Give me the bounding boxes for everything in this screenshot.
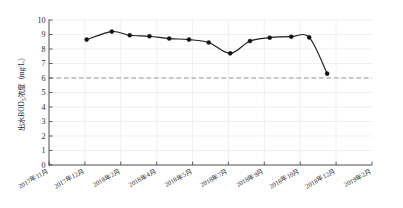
- data-point: [110, 30, 114, 34]
- data-point: [268, 36, 272, 40]
- data-point: [85, 38, 89, 42]
- y-axis-title-prefix: 出水BOD: [17, 100, 26, 130]
- x-axis-tick-labels: 2017年11月 2017年12月 2018年2月 2018年4月 2018年5…: [16, 166, 373, 191]
- y-axis-title-suffix: 浓度（mg/L）: [17, 54, 26, 98]
- data-point: [128, 33, 132, 37]
- y-tick-label: 2: [42, 132, 46, 141]
- data-point: [307, 35, 311, 39]
- x-axis-ticks: [49, 162, 372, 165]
- x-tick-label: 2017年12月: [52, 166, 86, 191]
- y-axis-ticks: [49, 20, 53, 165]
- y-tick-label: 3: [42, 117, 46, 126]
- series-markers: [85, 30, 330, 76]
- y-tick-label: 6: [42, 74, 46, 83]
- y-tick-label: 1: [42, 146, 46, 155]
- data-point: [147, 34, 151, 38]
- x-tick-label: 2018年7月: [198, 166, 229, 189]
- y-tick-label: 8: [42, 45, 46, 54]
- data-point: [167, 37, 171, 41]
- data-point: [228, 51, 232, 55]
- y-tick-label: 7: [42, 59, 46, 68]
- svg-text:出水BOD5浓度（mg/L）: 出水BOD5浓度（mg/L）: [17, 54, 27, 130]
- x-tick-label: 2018年4月: [127, 166, 158, 189]
- x-tick-label: 2018年5月: [163, 166, 194, 189]
- x-tick-label: 2018年10月: [267, 166, 301, 191]
- data-point: [187, 38, 191, 42]
- data-point: [325, 72, 329, 76]
- x-tick-label: 2018年12月: [303, 166, 337, 191]
- chart-container: 10 9 8 7 6 5 4 3 2 1 0 出水BOD5浓度（mg/L）: [0, 0, 403, 208]
- y-tick-label: 10: [38, 16, 46, 25]
- data-point: [248, 39, 252, 43]
- line-chart: 10 9 8 7 6 5 4 3 2 1 0 出水BOD5浓度（mg/L）: [0, 0, 403, 208]
- y-tick-label: 4: [42, 103, 46, 112]
- data-point: [289, 35, 293, 39]
- y-axis-title: 出水BOD5浓度（mg/L）: [17, 54, 27, 130]
- y-tick-label: 5: [42, 88, 46, 97]
- x-tick-label: 2019年2月: [342, 166, 373, 189]
- y-tick-label: 9: [42, 30, 46, 39]
- x-tick-label: 2018年9月: [234, 166, 265, 189]
- data-point: [207, 40, 211, 44]
- x-tick-label: 2017年11月: [16, 166, 50, 191]
- y-axis-tick-labels: 10 9 8 7 6 5 4 3 2 1 0: [38, 16, 46, 170]
- x-tick-label: 2018年2月: [91, 166, 122, 189]
